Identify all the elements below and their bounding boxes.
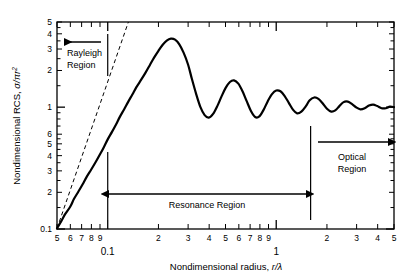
x-tick-label: 8	[258, 233, 263, 243]
x-tick-label: 5	[55, 233, 60, 243]
x-axis-decade-labels: 0.11	[101, 246, 280, 257]
x-tick-label: 2	[325, 233, 330, 243]
y-tick-label: 2	[47, 65, 52, 75]
x-tick-label: 8	[89, 233, 94, 243]
rayleigh-region-label-line1: Rayleigh	[67, 48, 102, 58]
y-tick-label: 1	[47, 102, 52, 112]
resonance-region-label: Resonance Region	[169, 200, 246, 210]
x-tick-label: 6	[236, 233, 241, 243]
x-tick-label: 7	[79, 233, 84, 243]
y-axis-title: Nondimensional RCS, σ/πr2	[11, 67, 22, 185]
y-tick-label: 5	[47, 139, 52, 149]
x-tick-label: 4	[207, 233, 212, 243]
x-axis-tick-labels: 56789234567892345	[55, 233, 397, 243]
x-decade-label: 0.1	[101, 246, 115, 257]
x-tick-label: 6	[68, 233, 73, 243]
y-tick-label: 3	[47, 44, 52, 54]
x-tick-label: 9	[266, 233, 271, 243]
y-tick-label: 3	[47, 166, 52, 176]
x-tick-label: 9	[98, 233, 103, 243]
y-tick-label: 5	[47, 17, 52, 27]
chart-svg: 56789234567892345 0.11 54321654320.1 Ray…	[0, 0, 415, 279]
x-tick-label: 7	[248, 233, 253, 243]
x-tick-label: 5	[392, 233, 397, 243]
y-axis-tick-labels: 54321654320.1	[40, 17, 52, 234]
x-tick-label: 5	[223, 233, 228, 243]
chart-figure: 56789234567892345 0.11 54321654320.1 Ray…	[0, 0, 415, 279]
x-tick-label: 3	[354, 233, 359, 243]
x-tick-label: 2	[156, 233, 161, 243]
y-tick-label: 2	[47, 187, 52, 197]
x-axis-title: Nondimensional radius, r/λ	[170, 261, 283, 272]
y-tick-label: 4	[47, 151, 52, 161]
x-tick-label: 3	[186, 233, 191, 243]
x-decade-label: 1	[273, 246, 279, 257]
optical-region-label-line2: Region	[338, 164, 367, 174]
optical-region-label-line1: Optical	[338, 152, 366, 162]
y-tick-label: 4	[47, 29, 52, 39]
y-tick-label: 6	[47, 129, 52, 139]
x-tick-label: 4	[375, 233, 380, 243]
y-tick-label: 0.1	[40, 224, 52, 234]
rayleigh-region-label-line2: Region	[67, 60, 96, 70]
